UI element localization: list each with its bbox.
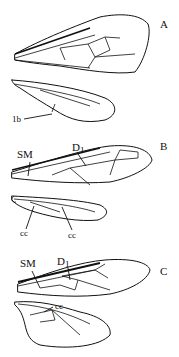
annotation-sm-b: SM [17, 148, 33, 160]
pointer-sm-c [32, 271, 40, 288]
panel-label-c: C [160, 265, 167, 277]
annotation-d1-c: D1 [57, 255, 69, 269]
wing-figure: A 1b B SM D1 cc cc C SM D1 cc [0, 0, 179, 357]
pointer-sm-b [28, 162, 30, 176]
annotation-sm-c: SM [20, 257, 36, 269]
panel-a-hindwing [12, 80, 115, 122]
annotation-cc-b-1: cc [20, 228, 28, 238]
panel-a-forewing [15, 15, 149, 73]
pointer-d1-b [78, 154, 86, 166]
panel-label-a: A [160, 18, 168, 30]
annotation-d1-c-main: D [57, 255, 65, 267]
annotation-cc-b-2: cc [68, 230, 76, 240]
annotation-d1-b-main: D [72, 141, 80, 153]
panel-label-b: B [160, 140, 167, 152]
annotation-d1-b: D1 [72, 141, 84, 155]
panel-c-forewing [18, 259, 150, 296]
annotation-1b: 1b [12, 114, 22, 124]
annotation-d1-b-sub: 1 [80, 145, 85, 155]
annotation-d1-c-sub: 1 [65, 259, 70, 269]
annotation-cc-c: cc [55, 301, 63, 311]
panel-b-hindwing [12, 196, 107, 221]
pointer-1b [24, 114, 52, 119]
